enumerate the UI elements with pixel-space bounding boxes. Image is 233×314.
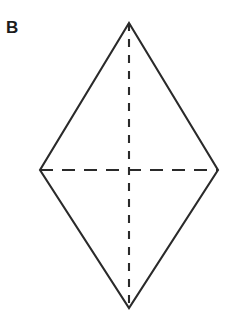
rhombus-diagram (0, 0, 233, 314)
figure-canvas: B (0, 0, 233, 314)
